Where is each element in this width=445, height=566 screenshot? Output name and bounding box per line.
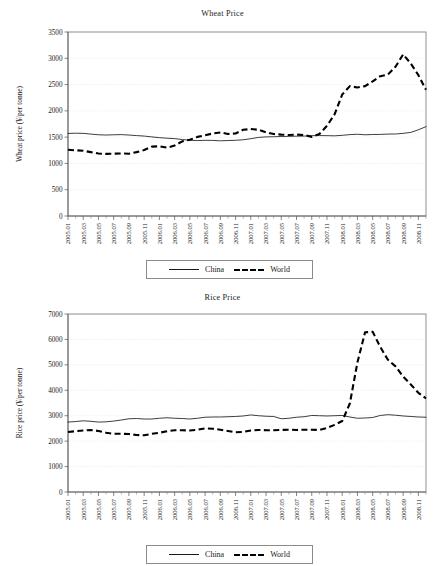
x-axis-tick-label: 2008.11	[415, 223, 422, 244]
x-axis-tick-label: 2006.11	[232, 223, 239, 244]
wheat-legend-label-world: World	[270, 265, 290, 274]
x-axis-tick-label: 2005.09	[125, 499, 132, 520]
x-axis-tick-label: 2007.09	[308, 499, 315, 520]
rice-legend-item-world: World	[234, 550, 290, 559]
dashed-line-icon	[234, 269, 264, 271]
wheat-legend: China World	[146, 260, 313, 279]
x-axis-tick-label: 2005.01	[64, 223, 71, 244]
y-axis-title: Rice price (¥/per tonne)	[15, 367, 24, 438]
x-axis-tick-label: 2006.05	[186, 499, 193, 520]
wheat-legend-item-world: World	[234, 265, 290, 274]
x-axis-tick-label: 2008.01	[339, 499, 346, 520]
rice-legend-label-world: World	[270, 550, 290, 559]
x-axis-tick-label: 2007.01	[247, 223, 254, 244]
plot-area-border	[68, 32, 426, 216]
x-axis-tick-label: 2005.09	[125, 223, 132, 244]
wheat-chart-svg: 05001000150020002500300035002005.012005.…	[0, 20, 445, 278]
plot-area-border	[68, 314, 426, 492]
y-axis-tick-label: 3500	[48, 29, 63, 37]
y-axis-tick-label: 1000	[48, 160, 63, 168]
y-axis-tick-label: 1000	[48, 463, 63, 471]
dashed-line-icon	[234, 554, 264, 556]
x-axis-tick-label: 2008.11	[415, 499, 422, 520]
solid-line-icon	[169, 269, 199, 270]
y-axis-tick-label: 7000	[48, 311, 63, 319]
x-axis-tick-label: 2006.09	[217, 499, 224, 520]
y-axis-tick-label: 6000	[48, 336, 63, 344]
y-axis-tick-label: 4000	[48, 387, 63, 395]
wheat-legend-label-china: China	[205, 265, 224, 274]
rice-legend-label-china: China	[205, 550, 224, 559]
x-axis-tick-label: 2007.09	[308, 223, 315, 244]
clipped-header	[0, 0, 445, 6]
figure-page: Wheat Price 0500100015002000250030003500…	[0, 0, 445, 566]
x-axis-tick-label: 2007.01	[247, 499, 254, 520]
x-axis-tick-label: 2008.07	[384, 222, 391, 244]
x-axis-tick-label: 2008.05	[369, 499, 376, 520]
rice-chart-svg: 010002000300040005000600070002005.012005…	[0, 304, 445, 554]
y-axis-tick-label: 0	[59, 489, 63, 497]
wheat-legend-item-china: China	[169, 265, 224, 274]
rice-legend-item-china: China	[169, 550, 224, 559]
rice-chart-block: Rice Price 01000200030004000500060007000…	[0, 292, 445, 566]
y-axis-tick-label: 1500	[48, 134, 63, 142]
x-axis-tick-label: 2007.03	[262, 223, 269, 244]
x-axis-tick-label: 2005.11	[141, 223, 148, 244]
x-axis-tick-label: 2007.07	[293, 222, 300, 244]
x-axis-tick-label: 2005.01	[64, 499, 71, 520]
x-axis-tick-label: 2006.01	[156, 499, 163, 520]
x-axis-tick-label: 2006.01	[156, 223, 163, 244]
y-axis-tick-label: 3000	[48, 55, 63, 63]
x-axis-tick-label: 2006.05	[186, 223, 193, 244]
x-axis-tick-label: 2005.05	[95, 223, 102, 244]
x-axis-tick-label: 2008.01	[339, 223, 346, 244]
x-axis-tick-label: 2008.03	[354, 223, 361, 244]
wheat-chart-block: Wheat Price 0500100015002000250030003500…	[0, 8, 445, 290]
x-axis-tick-label: 2005.11	[141, 499, 148, 520]
x-axis-tick-label: 2006.09	[217, 223, 224, 244]
x-axis-tick-label: 2007.07	[293, 498, 300, 520]
y-axis-tick-label: 5000	[48, 361, 63, 369]
rice-legend: China World	[146, 545, 313, 564]
x-axis-tick-label: 2006.03	[171, 223, 178, 244]
y-axis-tick-label: 3000	[48, 412, 63, 420]
x-axis-tick-label: 2006.11	[232, 499, 239, 520]
x-axis-tick-label: 2008.05	[369, 223, 376, 244]
x-axis-tick-label: 2007.05	[278, 223, 285, 244]
x-axis-tick-label: 2008.07	[384, 498, 391, 520]
y-axis-tick-label: 2500	[48, 81, 63, 89]
solid-line-icon	[169, 554, 199, 555]
x-axis-tick-label: 2005.03	[80, 499, 87, 520]
y-axis-tick-label: 0	[59, 213, 63, 221]
rice-chart-title: Rice Price	[0, 292, 445, 304]
x-axis-tick-label: 2005.05	[95, 499, 102, 520]
x-axis-tick-label: 2006.07	[202, 222, 209, 244]
y-axis-tick-label: 2000	[48, 107, 63, 115]
x-axis-tick-label: 2008.09	[400, 499, 407, 520]
x-axis-tick-label: 2007.05	[278, 499, 285, 520]
y-axis-tick-label: 500	[52, 186, 63, 194]
x-axis-tick-label: 2007.03	[262, 499, 269, 520]
x-axis-tick-label: 2005.07	[110, 222, 117, 244]
x-axis-tick-label: 2007.11	[323, 499, 330, 520]
x-axis-tick-label: 2006.07	[202, 498, 209, 520]
y-axis-title: Wheat price (¥/per tonne)	[15, 85, 24, 162]
y-axis-tick-label: 2000	[48, 438, 63, 446]
x-axis-tick-label: 2006.03	[171, 499, 178, 520]
wheat-chart-title: Wheat Price	[0, 8, 445, 20]
x-axis-tick-label: 2005.07	[110, 498, 117, 520]
x-axis-tick-label: 2007.11	[323, 223, 330, 244]
x-axis-tick-label: 2008.03	[354, 499, 361, 520]
x-axis-tick-label: 2005.03	[80, 223, 87, 244]
x-axis-tick-label: 2008.09	[400, 223, 407, 244]
